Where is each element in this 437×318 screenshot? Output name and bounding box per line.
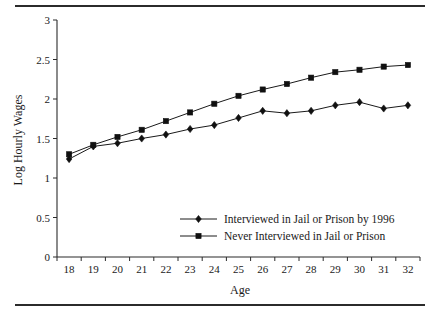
x-tick-label: 30 [354, 263, 366, 275]
data-point-diamond [332, 102, 338, 109]
x-tick-label: 27 [281, 263, 293, 275]
series-1 [66, 99, 410, 163]
x-tick-label: 29 [330, 263, 342, 275]
x-tick-label: 32 [402, 263, 413, 275]
data-point-square [357, 67, 362, 72]
x-tick-labels: 181920212223242526272829303132 [64, 263, 414, 275]
data-point-square [309, 75, 314, 80]
data-point-diamond [405, 102, 411, 109]
legend-label: Interviewed in Jail or Prison by 1996 [224, 213, 395, 226]
x-tick-label: 20 [112, 263, 124, 275]
y-tick-label: 2 [45, 93, 51, 105]
series-line [69, 102, 408, 159]
x-tick-label: 19 [88, 263, 100, 275]
x-tick-label: 28 [306, 263, 318, 275]
data-series-group [66, 62, 410, 162]
x-tick-label: 25 [233, 263, 245, 275]
legend-marker-diamond [196, 215, 202, 222]
data-point-square [212, 101, 217, 106]
data-point-square [67, 152, 72, 157]
data-point-diamond [187, 125, 193, 132]
data-point-square [236, 93, 241, 98]
chart-legend: Interviewed in Jail or Prison by 1996Nev… [180, 213, 395, 242]
y-tick-label: 3 [45, 14, 51, 26]
data-point-diamond [115, 140, 121, 147]
y-tick-labels: 00.511.522.53 [36, 14, 50, 263]
legend-label: Never Interviewed in Jail or Prison [224, 230, 386, 242]
line-chart: 00.511.522.53 18192021222324252627282930… [0, 0, 437, 318]
figure-container: 00.511.522.53 18192021222324252627282930… [0, 0, 437, 318]
data-point-diamond [236, 114, 242, 121]
data-point-diamond [357, 99, 363, 106]
data-point-square [115, 134, 120, 139]
y-axis-title: Log Hourly Wages [11, 94, 25, 185]
data-point-diamond [260, 107, 266, 114]
legend-marker-square [196, 233, 201, 238]
data-point-square [188, 110, 193, 115]
data-point-square [260, 87, 265, 92]
data-point-square [139, 127, 144, 132]
data-point-square [284, 81, 289, 86]
data-point-square [91, 142, 96, 147]
data-point-square [405, 62, 410, 67]
data-point-diamond [139, 135, 145, 142]
y-tick-label: 0.5 [36, 212, 50, 224]
legend-item-1: Interviewed in Jail or Prison by 1996 [180, 213, 395, 226]
data-point-square [381, 64, 386, 69]
data-point-square [333, 70, 338, 75]
x-tick-label: 23 [185, 263, 197, 275]
data-point-square [163, 119, 168, 124]
x-tick-label: 18 [64, 263, 76, 275]
series-line [69, 65, 408, 154]
x-tick-label: 22 [160, 263, 171, 275]
data-point-diamond [163, 131, 169, 138]
y-tick-label: 1.5 [36, 133, 50, 145]
x-axis-title: Age [230, 283, 250, 297]
data-point-diamond [211, 121, 217, 128]
data-point-diamond [284, 110, 290, 117]
y-tick-label: 2.5 [36, 54, 50, 66]
data-point-diamond [381, 105, 387, 112]
x-tick-label: 24 [209, 263, 221, 275]
x-tick-label: 31 [378, 263, 389, 275]
legend-item-2: Never Interviewed in Jail or Prison [180, 230, 386, 242]
x-tick-label: 26 [257, 263, 269, 275]
y-tick-label: 0 [45, 251, 51, 263]
data-point-diamond [308, 107, 314, 114]
y-tick-label: 1 [45, 172, 51, 184]
x-tick-label: 21 [136, 263, 147, 275]
